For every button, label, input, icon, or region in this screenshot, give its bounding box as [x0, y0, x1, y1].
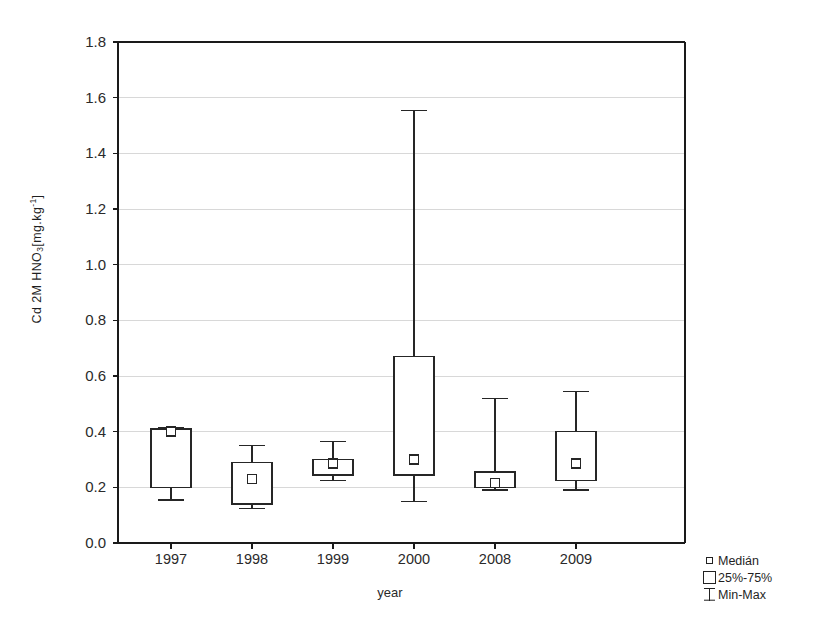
- boxplot-group: [232, 446, 272, 509]
- legend-label-median: Medián: [718, 554, 759, 568]
- y-axis-tick-label: 1.6: [60, 90, 106, 105]
- boxplot-group: [475, 398, 515, 490]
- median-marker: [248, 474, 257, 483]
- x-axis-tick-label: 1998: [217, 552, 287, 567]
- plot-area: [0, 0, 814, 624]
- x-axis-tick-label: 1997: [136, 552, 206, 567]
- y-axis-tick-label: 0.6: [60, 368, 106, 383]
- y-axis-tick-label: 0.4: [60, 424, 106, 439]
- legend-item-quartile-box: 25%-75%: [700, 569, 772, 586]
- median-marker: [167, 427, 176, 436]
- boxplot-group: [313, 441, 353, 480]
- legend: Medián 25%-75% Min-Max: [700, 552, 772, 603]
- y-axis-tick-label: 1.2: [60, 201, 106, 216]
- legend-label-min-max: Min-Max: [718, 588, 766, 602]
- median-marker: [491, 479, 500, 488]
- quartile-box: [151, 429, 191, 487]
- y-axis-tick-label: 0.2: [60, 479, 106, 494]
- box-range-icon: [700, 571, 718, 584]
- x-axis-tick-label: 2008: [460, 552, 530, 567]
- y-axis-tick-label: 0.8: [60, 312, 106, 327]
- x-axis-tick-label: 2009: [541, 552, 611, 567]
- y-axis-tick-label: 0.0: [60, 535, 106, 550]
- median-marker-icon: [700, 557, 718, 564]
- y-axis-tick-label: 1.0: [60, 257, 106, 272]
- x-axis-tick-label: 1999: [298, 552, 368, 567]
- legend-item-median: Medián: [700, 552, 772, 569]
- boxplot-group: [394, 110, 434, 501]
- legend-label-quartile-box: 25%-75%: [718, 571, 772, 585]
- median-marker: [410, 455, 419, 464]
- boxplot-group: [556, 391, 596, 490]
- boxplot-chart: Cd 2M HNO3[mg.kg-1] 0.00.20.40.60.81.01.…: [0, 0, 814, 624]
- quartile-box: [556, 432, 596, 481]
- y-axis-tick-label: 1.8: [60, 34, 106, 49]
- boxplot-group: [151, 427, 191, 500]
- median-marker: [329, 459, 338, 468]
- legend-item-min-max: Min-Max: [700, 586, 772, 603]
- whisker-range-icon: [700, 588, 718, 601]
- y-axis-tick-label: 1.4: [60, 145, 106, 160]
- x-axis-tick-label: 2000: [379, 552, 449, 567]
- median-marker: [572, 459, 581, 468]
- x-axis-label: year: [0, 585, 780, 600]
